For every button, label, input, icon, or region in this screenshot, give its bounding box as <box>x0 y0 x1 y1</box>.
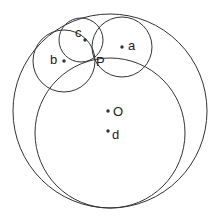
circle-d <box>35 58 185 208</box>
circle-O <box>13 14 207 208</box>
point-label-center-d: d <box>112 127 119 142</box>
point-dot-center-d <box>106 129 109 132</box>
point-dot-center-a <box>120 45 123 48</box>
point-label-P: P <box>96 54 105 69</box>
geometry-figure: PabcOd <box>0 0 220 220</box>
circle-diagram: PabcOd <box>0 0 220 220</box>
point-label-center-c: c <box>75 25 82 40</box>
point-label-center-a: a <box>128 38 136 53</box>
point-dot-center-O <box>106 109 109 112</box>
point-label-center-b: b <box>50 52 57 67</box>
circles-layer <box>13 14 207 208</box>
point-dot-center-c <box>83 38 86 41</box>
point-dot-center-b <box>62 59 65 62</box>
points-layer: PabcOd <box>50 25 136 142</box>
point-label-center-O: O <box>113 104 123 119</box>
